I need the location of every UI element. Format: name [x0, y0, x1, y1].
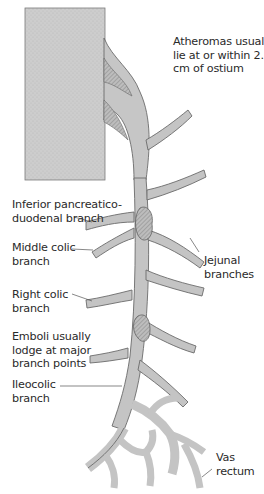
- label-atheromas: Atheromas usually lie at or within 2.5 c…: [173, 35, 264, 76]
- label-right-colic-branch: Right colic branch: [12, 288, 68, 315]
- label-ileocolic-branch: Ileocolic branch: [12, 378, 56, 405]
- embolus-upper: [136, 207, 153, 240]
- sma-anatomy-diagram: Atheromas usually lie at or within 2.5 c…: [0, 0, 264, 494]
- arcade-network: [88, 398, 204, 488]
- label-emboli: Emboli usually lodge at major branch poi…: [12, 330, 91, 371]
- label-jejunal-branches: Jejunal branches: [204, 254, 254, 281]
- label-inferior-pancreaticoduodenal-branch: Inferior pancreatico- duodenal branch: [12, 198, 122, 225]
- label-vas-rectum: Vas rectum: [216, 451, 255, 478]
- aorta: [25, 8, 105, 180]
- colic-branches: [86, 212, 134, 363]
- label-middle-colic-branch: Middle colic branch: [12, 241, 75, 268]
